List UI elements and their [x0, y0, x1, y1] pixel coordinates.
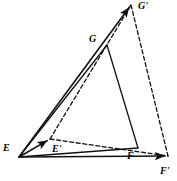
vertex-label-E: E — [3, 143, 10, 153]
edge-Eprime-Gprime — [50, 5, 131, 139]
vertex-label-E-prime: E' — [52, 144, 61, 154]
vector-E-to-Gprime — [19, 8, 129, 157]
edge-G-F — [107, 45, 138, 148]
geometry-diagram: E E' F F' G G' — [0, 0, 177, 181]
dashed-edge-group — [50, 5, 168, 156]
diagram-canvas — [0, 0, 177, 181]
vector-group — [19, 8, 165, 157]
solid-edge-group — [19, 45, 138, 157]
vertex-label-G: G — [89, 34, 96, 44]
vertex-label-F: F — [127, 151, 134, 161]
vertex-label-F-prime: F' — [160, 166, 169, 176]
vector-E-to-Fprime — [19, 156, 165, 157]
vertex-label-G-prime: G' — [138, 1, 148, 11]
edge-Gprime-Fprime — [131, 5, 168, 156]
